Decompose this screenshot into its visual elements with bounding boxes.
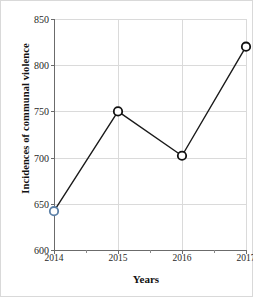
- x-tick-mark: [118, 250, 119, 254]
- data-point-marker: [114, 107, 122, 115]
- x-axis-title: Years: [46, 273, 246, 285]
- x-tick-label: 2016: [173, 253, 192, 263]
- data-point-marker: [242, 43, 250, 51]
- x-tick-mark-minor: [150, 250, 151, 253]
- data-point-marker: [50, 207, 58, 215]
- x-tick-label: 2017: [237, 253, 254, 263]
- y-tick-label: 750: [34, 106, 49, 117]
- x-tick-label: 2015: [109, 253, 128, 263]
- x-tick-mark-minor: [86, 250, 87, 253]
- chart-figure: Incidences of communal violence 60065070…: [0, 0, 253, 297]
- x-tick-mark: [54, 250, 55, 254]
- y-tick-label: 650: [34, 198, 49, 209]
- y-tick-label: 850: [34, 14, 49, 25]
- y-tick-label: 800: [34, 60, 49, 71]
- y-axis-title: Incidences of communal violence: [20, 9, 31, 229]
- data-point-markers: [50, 43, 250, 216]
- x-tick-mark-minor: [214, 250, 215, 253]
- plot-area: 600650700750800850 2014201520162017: [54, 19, 246, 250]
- x-tick-mark: [246, 250, 247, 254]
- x-tick-label: 2014: [45, 253, 64, 263]
- data-point-marker: [178, 152, 186, 160]
- data-series-line: [54, 19, 246, 250]
- line-path: [54, 47, 246, 211]
- gridline-vertical: [246, 19, 247, 250]
- y-tick-label: 700: [34, 152, 49, 163]
- x-tick-mark: [182, 250, 183, 254]
